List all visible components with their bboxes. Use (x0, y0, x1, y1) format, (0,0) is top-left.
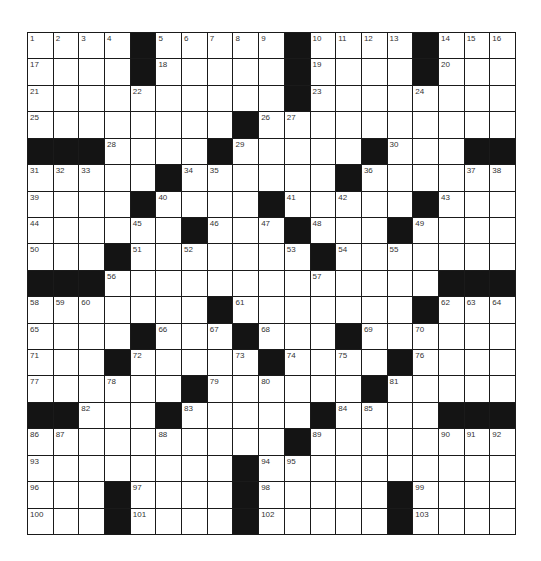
grid-cell[interactable] (439, 244, 464, 269)
grid-cell[interactable] (156, 244, 181, 269)
grid-cell[interactable] (311, 324, 336, 349)
grid-cell[interactable] (439, 376, 464, 401)
grid-cell[interactable] (259, 297, 284, 322)
grid-cell[interactable] (259, 429, 284, 454)
grid-cell[interactable] (233, 218, 258, 243)
grid-cell[interactable] (413, 165, 438, 190)
grid-cell[interactable]: 18 (156, 59, 181, 84)
grid-cell[interactable] (336, 456, 361, 481)
grid-cell[interactable] (208, 456, 233, 481)
grid-cell[interactable] (465, 456, 490, 481)
grid-cell[interactable] (413, 456, 438, 481)
grid-cell[interactable] (105, 324, 130, 349)
grid-cell[interactable] (259, 86, 284, 111)
grid-cell[interactable]: 22 (131, 86, 156, 111)
grid-cell[interactable]: 9 (259, 33, 284, 58)
grid-cell[interactable]: 86 (28, 429, 53, 454)
grid-cell[interactable]: 89 (311, 429, 336, 454)
grid-cell[interactable] (79, 192, 104, 217)
grid-cell[interactable] (54, 86, 79, 111)
grid-cell[interactable] (79, 482, 104, 507)
grid-cell[interactable] (233, 376, 258, 401)
grid-cell[interactable] (465, 350, 490, 375)
grid-cell[interactable] (79, 350, 104, 375)
grid-cell[interactable] (311, 350, 336, 375)
grid-cell[interactable] (131, 456, 156, 481)
grid-cell[interactable]: 92 (490, 429, 515, 454)
grid-cell[interactable] (388, 112, 413, 137)
grid-cell[interactable]: 7 (208, 33, 233, 58)
grid-cell[interactable] (79, 456, 104, 481)
grid-cell[interactable] (182, 59, 207, 84)
grid-cell[interactable] (336, 139, 361, 164)
grid-cell[interactable] (388, 456, 413, 481)
grid-cell[interactable]: 36 (362, 165, 387, 190)
grid-cell[interactable] (156, 482, 181, 507)
grid-cell[interactable] (388, 297, 413, 322)
grid-cell[interactable] (490, 244, 515, 269)
grid-cell[interactable]: 80 (259, 376, 284, 401)
grid-cell[interactable] (208, 59, 233, 84)
grid-cell[interactable] (388, 429, 413, 454)
grid-cell[interactable] (311, 376, 336, 401)
grid-cell[interactable] (54, 244, 79, 269)
grid-cell[interactable] (233, 429, 258, 454)
grid-cell[interactable]: 54 (336, 244, 361, 269)
grid-cell[interactable] (79, 244, 104, 269)
grid-cell[interactable] (311, 509, 336, 534)
grid-cell[interactable] (208, 271, 233, 296)
grid-cell[interactable] (208, 192, 233, 217)
grid-cell[interactable] (439, 482, 464, 507)
grid-cell[interactable] (336, 482, 361, 507)
grid-cell[interactable]: 11 (336, 33, 361, 58)
grid-cell[interactable] (362, 509, 387, 534)
grid-cell[interactable]: 51 (131, 244, 156, 269)
grid-cell[interactable] (182, 324, 207, 349)
grid-cell[interactable] (259, 165, 284, 190)
grid-cell[interactable] (79, 324, 104, 349)
grid-cell[interactable] (54, 59, 79, 84)
grid-cell[interactable]: 90 (439, 429, 464, 454)
grid-cell[interactable]: 41 (285, 192, 310, 217)
grid-cell[interactable] (285, 271, 310, 296)
grid-cell[interactable] (182, 139, 207, 164)
grid-cell[interactable] (490, 218, 515, 243)
grid-cell[interactable]: 25 (28, 112, 53, 137)
grid-cell[interactable] (362, 244, 387, 269)
grid-cell[interactable] (156, 509, 181, 534)
grid-cell[interactable] (54, 218, 79, 243)
grid-cell[interactable]: 66 (156, 324, 181, 349)
grid-cell[interactable]: 17 (28, 59, 53, 84)
grid-cell[interactable] (105, 218, 130, 243)
grid-cell[interactable]: 63 (465, 297, 490, 322)
grid-cell[interactable]: 81 (388, 376, 413, 401)
grid-cell[interactable]: 49 (413, 218, 438, 243)
grid-cell[interactable] (105, 86, 130, 111)
grid-cell[interactable]: 47 (259, 218, 284, 243)
grid-cell[interactable] (285, 403, 310, 428)
grid-cell[interactable] (233, 59, 258, 84)
grid-cell[interactable]: 3 (79, 33, 104, 58)
grid-cell[interactable]: 97 (131, 482, 156, 507)
grid-cell[interactable]: 98 (259, 482, 284, 507)
grid-cell[interactable] (285, 482, 310, 507)
grid-cell[interactable] (285, 324, 310, 349)
grid-cell[interactable]: 99 (413, 482, 438, 507)
grid-cell[interactable]: 16 (490, 33, 515, 58)
grid-cell[interactable] (105, 429, 130, 454)
grid-cell[interactable] (285, 165, 310, 190)
grid-cell[interactable]: 13 (388, 33, 413, 58)
grid-cell[interactable]: 8 (233, 33, 258, 58)
grid-cell[interactable]: 73 (233, 350, 258, 375)
grid-cell[interactable]: 37 (465, 165, 490, 190)
grid-cell[interactable] (362, 192, 387, 217)
grid-cell[interactable]: 94 (259, 456, 284, 481)
grid-cell[interactable] (465, 324, 490, 349)
grid-cell[interactable]: 24 (413, 86, 438, 111)
grid-cell[interactable]: 60 (79, 297, 104, 322)
grid-cell[interactable] (233, 271, 258, 296)
grid-cell[interactable] (105, 112, 130, 137)
grid-cell[interactable] (490, 482, 515, 507)
grid-cell[interactable] (208, 112, 233, 137)
grid-cell[interactable] (259, 271, 284, 296)
